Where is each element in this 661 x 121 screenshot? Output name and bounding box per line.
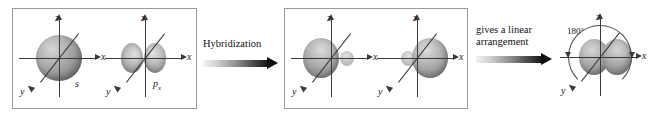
orbital-label-s: s	[75, 79, 79, 89]
orbital-label-px-subscript: x	[158, 84, 161, 92]
axis-label-z: z	[327, 13, 331, 23]
axis-y-arrowhead-icon	[26, 83, 35, 92]
axis-label-z: z	[55, 13, 59, 23]
linear-arrangement-arrow-icon	[476, 56, 556, 69]
axis-label-z: z	[413, 13, 417, 23]
transition-linear-caption-line2: arrangement	[476, 36, 528, 48]
transition-hybridization-caption: Hybridization	[203, 38, 261, 50]
axis-label-z: z	[596, 12, 600, 22]
axis-y-arrowhead-icon	[567, 82, 576, 91]
orbital-sp-linear-pair-diagram: x z y 180°	[556, 10, 660, 106]
transition-hybridization: Hybridization	[203, 8, 279, 109]
axis-label-y: y	[20, 87, 24, 97]
orbital-label-px: px	[153, 79, 161, 92]
axis-label-y: y	[561, 86, 565, 96]
transition-linear-arrangement: gives a linear arrangement	[476, 8, 556, 109]
hybridization-arrow-head	[267, 57, 278, 69]
axis-y-arrowhead-icon	[112, 83, 121, 92]
orbital-sp-right-diagram: x z y	[373, 11, 477, 107]
axis-label-y: y	[292, 87, 296, 97]
angle-arrowhead-right-icon	[629, 52, 635, 58]
linear-arrangement-arrow-head	[541, 53, 552, 65]
hybridization-arrow-bar	[203, 60, 268, 67]
axis-label-x: x	[459, 52, 463, 62]
linear-arrangement-arrow-bar	[476, 56, 542, 63]
axis-y-arrowhead-icon	[298, 83, 307, 92]
hybridization-arrow-icon	[203, 60, 279, 73]
axis-label-x: x	[642, 51, 646, 61]
transition-linear-caption-line1: gives a linear	[476, 24, 532, 36]
panel-hybrid-orbitals: x z y x z y	[284, 8, 468, 109]
axis-label-x: x	[187, 52, 191, 62]
orbital-px-diagram: x z y px	[101, 11, 205, 107]
axis-label-y: y	[106, 87, 110, 97]
angle-arrowhead-left-icon	[565, 52, 571, 58]
axis-label-z: z	[141, 13, 145, 23]
panel-initial-orbitals: x z y s x z y px	[12, 8, 197, 109]
axis-y-arrowhead-icon	[384, 83, 393, 92]
axis-label-y: y	[378, 87, 382, 97]
angle-label-180: 180°	[567, 27, 584, 36]
orbital-hybridization-figure: x z y s x z y px Hybridization	[0, 0, 661, 121]
